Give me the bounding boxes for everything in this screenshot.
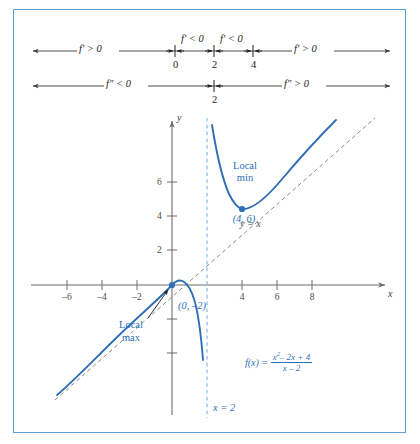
sign-tick-f2-2: 2: [209, 95, 220, 106]
figure-container: f' > 0 f' < 0 f' < 0 f' > 0 0 2 4 f″ < 0…: [0, 0, 420, 444]
sign-label-f1-seg4: f' > 0: [294, 44, 317, 55]
x-tick-4: 4: [235, 293, 249, 303]
local-min-label-line2: min: [226, 173, 264, 184]
x-tick-minus-6: –6: [59, 293, 75, 303]
formula-denominator: x – 2: [271, 363, 313, 373]
y-tick-2: 2: [157, 246, 162, 256]
local-max-label-line2: max: [113, 333, 149, 344]
sign-label-f1-seg2: f' < 0: [181, 34, 204, 45]
x-tick-8: 8: [305, 293, 319, 303]
vertical-asymptote-label: x = 2: [213, 403, 235, 414]
sign-tick-f1-4: 4: [248, 60, 259, 71]
local-max-coordinates: (0, –2): [178, 301, 206, 312]
local-max-leader-arrow: [148, 290, 168, 318]
x-tick-minus-4: –4: [94, 293, 110, 303]
x-tick-minus-2: –2: [129, 293, 145, 303]
local-max-point-marker: [169, 282, 175, 288]
sign-label-f1-seg1: f' > 0: [79, 44, 102, 55]
x-axis-label: x: [388, 289, 392, 299]
second-derivative-sign-line: [33, 79, 390, 93]
formula-numerator-rest: – 2x + 4: [280, 352, 310, 362]
formula-fraction: x2– 2x + 4 x – 2: [271, 353, 313, 374]
sign-label-f1-seg3: f' < 0: [220, 34, 243, 45]
slant-asymptote: [55, 118, 375, 400]
y-tick-4: 4: [157, 212, 162, 222]
sign-tick-f1-2: 2: [209, 60, 220, 71]
formula-lhs: f(x) =: [245, 357, 268, 368]
x-tick-6: 6: [270, 293, 284, 303]
slant-asymptote-label: y = x: [240, 219, 261, 229]
local-min-point-marker: [239, 206, 245, 212]
sign-label-f2-seg2: f″ > 0: [284, 79, 309, 90]
local-min-label-line1: Local: [226, 161, 264, 172]
local-max-label-line1: Local: [113, 320, 149, 331]
formula-numerator: x2– 2x + 4: [271, 353, 313, 364]
sign-tick-f1-0: 0: [170, 60, 181, 71]
y-axis-label: y: [177, 113, 181, 123]
sign-label-f2-seg1: f″ < 0: [106, 79, 131, 90]
function-formula: f(x) = x2– 2x + 4 x – 2: [245, 353, 312, 374]
y-tick-6: 6: [157, 178, 162, 188]
